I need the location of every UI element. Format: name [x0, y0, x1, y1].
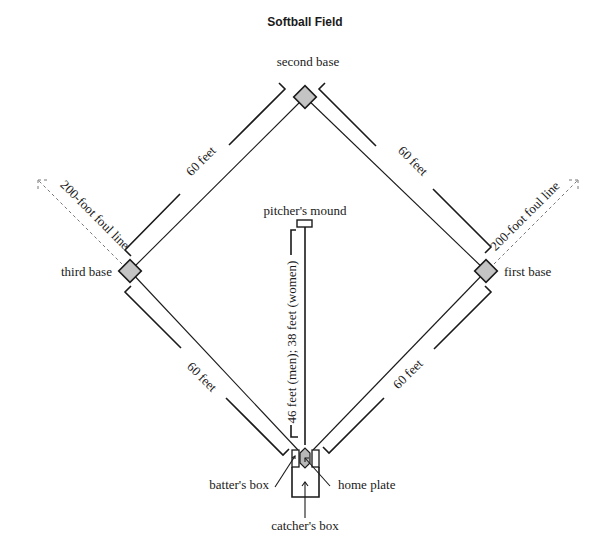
pitchers-mound [297, 220, 312, 227]
label-pitch-distance: 46 feet (men); 38 feet (women) [284, 261, 299, 424]
home-area [275, 448, 330, 518]
softball-field-diagram: Softball Field [0, 0, 610, 551]
label-catchers-box: catcher's box [271, 518, 339, 533]
batters-box-right [312, 450, 319, 467]
dimension-2nd-1st [319, 83, 491, 253]
label-60ft-2nd-3rd: 60 feet [183, 143, 219, 179]
label-60ft-1st-home: 60 feet [390, 356, 426, 392]
label-foul-line-right: 200-foot foul line [487, 178, 563, 254]
label-second-base: second base [277, 54, 340, 69]
label-60ft-3rd-home: 60 feet [184, 359, 220, 395]
label-home-plate: home plate [338, 477, 396, 492]
dimension-2nd-3rd [125, 83, 285, 256]
label-first-base: first base [504, 264, 552, 279]
label-foul-line-left: 200-foot foul line [57, 177, 133, 253]
label-third-base: third base [61, 264, 112, 279]
base-paths [130, 97, 486, 450]
label-60ft-2nd-1st: 60 feet [395, 143, 431, 179]
label-pitchers-mound: pitcher's mound [264, 203, 347, 218]
diagram-title: Softball Field [267, 15, 342, 29]
label-batters-box: batter's box [209, 477, 269, 492]
